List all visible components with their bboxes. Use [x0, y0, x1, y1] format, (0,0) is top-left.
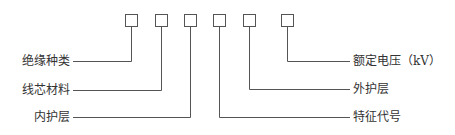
cable-model-diagram: 绝缘种类 线芯材料 内护层 额定电压（kV） 外护层 特征代号: [0, 0, 455, 135]
label-feature-code: 特征代号: [353, 110, 401, 124]
code-box-6: [282, 15, 294, 27]
code-box-4: [214, 15, 226, 27]
label-insulation-type: 绝缘种类: [22, 54, 70, 68]
code-box-1: [126, 15, 138, 27]
leader-line-5: [250, 27, 351, 90]
code-box-2: [156, 15, 168, 27]
label-rated-voltage: 额定电压（kV）: [353, 54, 441, 68]
leader-line-4: [220, 27, 351, 118]
leader-line-2: [73, 27, 162, 91]
code-box-5: [244, 15, 256, 27]
label-inner-sheath: 内护层: [34, 110, 70, 124]
label-outer-sheath: 外护层: [353, 82, 389, 96]
code-box-3: [185, 15, 197, 27]
leader-line-1: [73, 27, 132, 62]
leader-line-6: [288, 27, 351, 62]
label-core-material: 线芯材料: [22, 83, 70, 97]
